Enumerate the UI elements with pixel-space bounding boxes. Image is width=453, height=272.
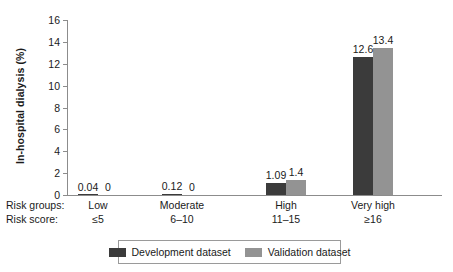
- risk-score-label-moderate: 6–10: [170, 213, 193, 225]
- bar-label-moderate-development: 0.12: [162, 180, 182, 192]
- bar-label-high-development: 1.09: [266, 169, 286, 181]
- y-tick-mark: [63, 151, 67, 152]
- risk-group-label-high: High: [275, 199, 297, 211]
- legend-item-development: Development dataset: [109, 246, 231, 258]
- y-tick-mark: [63, 42, 67, 43]
- risk-group-label-very-high: Very high: [351, 199, 395, 211]
- bar-very-high-validation: [373, 48, 393, 195]
- bar-moderate-development: [162, 194, 182, 196]
- bar-chart: In-hospital dialysis (%) 0246810121416 0…: [0, 0, 453, 272]
- y-tick-label: 16: [48, 14, 60, 26]
- y-tick-label: 2: [54, 167, 60, 179]
- y-tick-label: 14: [48, 36, 60, 48]
- bar-label-moderate-validation: 0: [189, 181, 195, 193]
- risk-group-label-moderate: Moderate: [160, 199, 204, 211]
- bar-label-low-validation: 0: [105, 181, 111, 193]
- legend-item-validation: Validation dataset: [245, 246, 351, 258]
- y-tick-label: 8: [54, 102, 60, 114]
- y-tick-mark: [63, 173, 67, 174]
- y-tick-mark: [63, 64, 67, 65]
- bar-label-very-high-development: 12.6: [353, 43, 373, 55]
- bar-label-low-development: 0.04: [78, 181, 98, 193]
- legend-swatch-validation: [245, 248, 262, 257]
- legend-swatch-development: [109, 248, 126, 257]
- y-tick-label: 12: [48, 58, 60, 70]
- risk-score-row: Risk score: ≤56–1011–15≥16: [0, 213, 453, 227]
- bar-high-development: [266, 183, 286, 195]
- bar-high-validation: [286, 180, 306, 195]
- plot-area: 0246810121416 0.0400.1201.091.412.613.4: [67, 20, 442, 195]
- bar-label-high-validation: 1.4: [289, 166, 304, 178]
- y-tick-mark: [63, 108, 67, 109]
- risk-score-row-title: Risk score:: [6, 213, 58, 225]
- y-axis-title: In-hospital dialysis (%): [14, 16, 26, 196]
- chart-legend: Development dataset Validation dataset: [118, 240, 341, 264]
- y-tick-mark: [63, 129, 67, 130]
- legend-label-development: Development dataset: [132, 246, 231, 258]
- risk-groups-row-title: Risk groups:: [6, 199, 64, 211]
- y-tick-label: 10: [48, 80, 60, 92]
- y-tick-label: 6: [54, 123, 60, 135]
- risk-group-label-low: Low: [88, 199, 107, 211]
- y-axis-line: [67, 20, 68, 195]
- risk-score-label-very-high: ≥16: [364, 213, 381, 225]
- category-axis: Risk groups: LowModerateHighVery high Ri…: [0, 199, 453, 227]
- risk-score-label-low: ≤5: [92, 213, 104, 225]
- bar-label-very-high-validation: 13.4: [373, 34, 393, 46]
- y-tick-mark: [63, 20, 67, 21]
- bar-low-development: [78, 194, 98, 196]
- risk-groups-row: Risk groups: LowModerateHighVery high: [0, 199, 453, 213]
- y-tick-mark: [63, 195, 67, 196]
- risk-score-label-high: 11–15: [272, 213, 300, 225]
- x-axis-line: [67, 195, 442, 196]
- bar-very-high-development: [353, 57, 373, 195]
- legend-label-validation: Validation dataset: [268, 246, 351, 258]
- y-tick-label: 4: [54, 145, 60, 157]
- y-tick-mark: [63, 86, 67, 87]
